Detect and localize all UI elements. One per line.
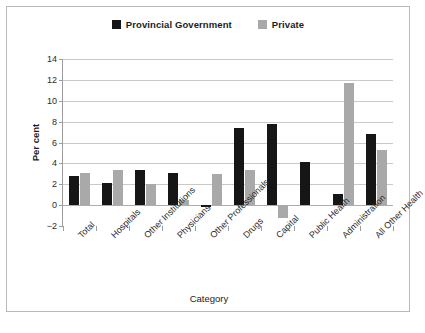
- x-tick-mark: [96, 226, 97, 231]
- x-tick-mark: [162, 226, 163, 231]
- x-tick-mark: [129, 226, 130, 231]
- legend-entry-private: Private: [258, 19, 304, 30]
- bar-group: [300, 59, 321, 226]
- bar: [69, 176, 79, 205]
- y-axis-title-text: Per cent: [30, 124, 41, 162]
- bar-group: [135, 59, 156, 226]
- chart-legend: Provincial Government Private: [7, 19, 409, 30]
- bar: [234, 128, 244, 205]
- bar-group: [69, 59, 90, 226]
- y-tick-label: 0: [52, 200, 57, 210]
- plot-area: −202468101214 TotalHospitalsOther Instit…: [63, 59, 393, 226]
- legend-label-provincial-government: Provincial Government: [126, 19, 232, 30]
- bar: [212, 174, 222, 205]
- bar: [278, 205, 288, 218]
- x-tick-mark: [195, 226, 196, 231]
- y-tick-label: 14: [47, 54, 57, 64]
- bar: [300, 162, 310, 205]
- legend-swatch-provincial-government: [112, 20, 121, 29]
- x-tick-mark: [327, 226, 328, 231]
- x-tick-mark: [261, 226, 262, 231]
- y-tick-label: 10: [47, 96, 57, 106]
- bar: [135, 170, 145, 205]
- chart-frame: Provincial Government Private Per cent −…: [6, 6, 410, 312]
- legend-entry-provincial-government: Provincial Government: [112, 19, 232, 30]
- y-tick-label: 2: [52, 179, 57, 189]
- x-tick-mark: [360, 226, 361, 231]
- bar: [102, 183, 112, 205]
- x-tick-mark: [63, 226, 64, 231]
- bar-group: [267, 59, 288, 226]
- bar: [366, 134, 376, 205]
- bar: [80, 173, 90, 205]
- bar-group: [201, 59, 222, 226]
- y-tick-mark: [59, 163, 63, 164]
- legend-swatch-private: [258, 20, 267, 29]
- bar: [113, 170, 123, 205]
- bar-group: [102, 59, 123, 226]
- x-tick-mark: [294, 226, 295, 231]
- x-tick-mark: [228, 226, 229, 231]
- y-tick-mark: [59, 59, 63, 60]
- x-tick-mark: [393, 226, 394, 231]
- bar: [146, 184, 156, 205]
- bar: [344, 83, 354, 205]
- y-tick-label: 4: [52, 158, 57, 168]
- y-tick-label: 12: [47, 75, 57, 85]
- y-tick-mark: [59, 143, 63, 144]
- y-tick-mark: [59, 122, 63, 123]
- y-tick-label: 6: [52, 138, 57, 148]
- x-axis-title: Category: [7, 293, 411, 304]
- bar: [267, 124, 277, 205]
- y-tick-mark: [59, 205, 63, 206]
- y-tick-mark: [59, 101, 63, 102]
- legend-label-private: Private: [272, 19, 304, 30]
- y-tick-label: 8: [52, 117, 57, 127]
- y-tick-label: −2: [47, 221, 57, 231]
- y-tick-mark: [59, 184, 63, 185]
- y-tick-mark: [59, 80, 63, 81]
